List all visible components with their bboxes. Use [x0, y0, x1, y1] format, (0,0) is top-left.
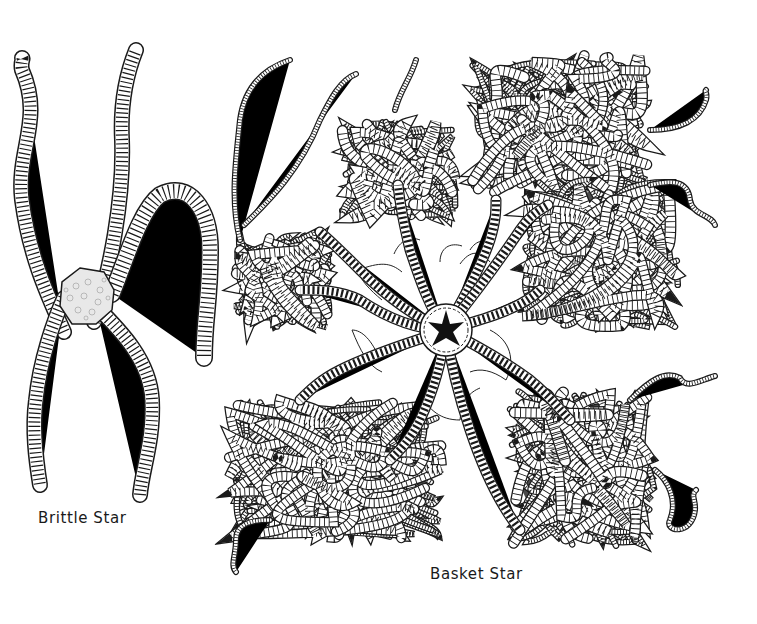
illustration-canvas [0, 0, 757, 624]
brittle-star-caption: Brittle Star [38, 509, 127, 527]
basket-star-drawing [229, 56, 715, 573]
basket-star-caption: Basket Star [430, 565, 523, 583]
brittle-star-drawing [21, 50, 210, 495]
